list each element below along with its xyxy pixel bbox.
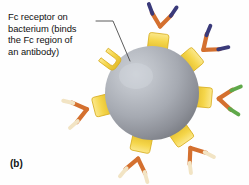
receptor-antibody-right	[194, 83, 241, 115]
figure-panel-b: Fc receptor on bacterium (binds the Fc r…	[0, 0, 249, 185]
sphere-highlight	[119, 63, 153, 89]
fc-receptor-callout-label: Fc receptor on bacterium (binds the Fc r…	[8, 11, 100, 57]
receptor-antibody-top	[143, 4, 176, 52]
panel-label: (b)	[10, 158, 23, 169]
